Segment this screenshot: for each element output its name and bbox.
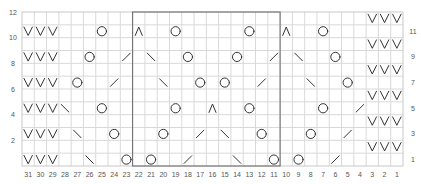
chart-labels: 3130292827262524232221201918171615141312… — [9, 9, 417, 179]
column-label: 19 — [172, 171, 180, 178]
slip-stitch-icon — [24, 27, 32, 35]
yarn-over-icon — [220, 78, 229, 87]
column-label: 13 — [245, 171, 253, 178]
column-label: 9 — [297, 171, 301, 178]
column-label: 2 — [383, 171, 387, 178]
k2tog-icon — [344, 130, 352, 138]
slip-stitch-icon — [36, 53, 44, 61]
row-label-right: 7 — [411, 79, 415, 86]
yarn-over-icon — [269, 155, 278, 164]
ssk-icon — [74, 130, 82, 138]
slip-stitch-icon — [393, 14, 401, 22]
column-label: 23 — [123, 171, 131, 178]
slip-stitch-icon — [24, 53, 32, 61]
double-decrease-icon — [209, 104, 216, 112]
row-label-right: 11 — [409, 28, 416, 35]
column-label: 20 — [159, 171, 167, 178]
slip-stitch-icon — [368, 66, 376, 74]
slip-stitch-icon — [393, 66, 401, 74]
yarn-over-icon — [343, 78, 352, 87]
slip-stitch-icon — [380, 143, 388, 151]
yarn-over-icon — [122, 155, 131, 164]
slip-stitch-icon — [393, 143, 401, 151]
ssk-icon — [160, 79, 168, 87]
column-label: 18 — [184, 171, 192, 178]
column-label: 8 — [309, 171, 313, 178]
yarn-over-icon — [232, 52, 241, 61]
yarn-over-icon — [183, 52, 192, 61]
column-label: 1 — [395, 171, 399, 178]
column-label: 29 — [49, 171, 57, 178]
row-label-right: 3 — [411, 130, 415, 137]
double-decrease-icon — [135, 27, 142, 35]
ssk-icon — [147, 53, 155, 61]
yarn-over-icon — [159, 129, 168, 138]
slip-stitch-icon — [380, 117, 388, 125]
ssk-icon — [86, 156, 94, 164]
slip-stitch-icon — [368, 91, 376, 99]
slip-stitch-icon — [24, 155, 32, 163]
knitting-chart: 3130292827262524232221201918171615141312… — [0, 0, 421, 184]
slip-stitch-icon — [24, 104, 32, 112]
ssk-icon — [307, 79, 315, 87]
k2tog-icon — [196, 130, 204, 138]
slip-stitch-icon — [380, 14, 388, 22]
k2tog-icon — [258, 79, 266, 87]
k2tog-icon — [356, 104, 364, 112]
slip-stitch-icon — [380, 66, 388, 74]
column-label: 3 — [370, 171, 374, 178]
yarn-over-icon — [257, 129, 266, 138]
yarn-over-icon — [196, 78, 205, 87]
slip-stitch-icon — [36, 104, 44, 112]
column-label: 28 — [61, 171, 69, 178]
slip-stitch-icon — [49, 78, 57, 86]
slip-stitch-icon — [380, 40, 388, 48]
yarn-over-icon — [73, 78, 82, 87]
yarn-over-icon — [319, 27, 328, 36]
column-label: 30 — [37, 171, 45, 178]
ssk-icon — [295, 53, 303, 61]
column-label: 27 — [73, 171, 81, 178]
row-label-left: 4 — [11, 111, 15, 118]
double-decrease-icon — [283, 27, 290, 35]
slip-stitch-icon — [36, 78, 44, 86]
slip-stitch-icon — [36, 27, 44, 35]
slip-stitch-icon — [368, 117, 376, 125]
slip-stitch-icon — [393, 117, 401, 125]
k2tog-icon — [123, 53, 131, 61]
row-label-left: 2 — [11, 137, 15, 144]
row-label-left: 12 — [9, 9, 17, 16]
yarn-over-icon — [171, 104, 180, 113]
row-label-right: 1 — [411, 156, 415, 163]
row-label-left: 6 — [11, 86, 15, 93]
column-label: 7 — [321, 171, 325, 178]
slip-stitch-icon — [36, 130, 44, 138]
column-label: 11 — [270, 171, 277, 178]
yarn-over-icon — [97, 104, 106, 113]
slip-stitch-icon — [368, 143, 376, 151]
yarn-over-icon — [85, 52, 94, 61]
row-label-left: 10 — [9, 34, 17, 41]
k2tog-icon — [110, 79, 118, 87]
slip-stitch-icon — [36, 155, 44, 163]
column-label: 17 — [196, 171, 204, 178]
k2tog-icon — [270, 53, 278, 61]
ssk-icon — [61, 104, 69, 112]
column-label: 4 — [358, 171, 362, 178]
column-label: 12 — [258, 171, 266, 178]
slip-stitch-icon — [24, 78, 32, 86]
column-label: 24 — [110, 171, 118, 178]
yarn-over-icon — [294, 155, 303, 164]
slip-stitch-icon — [380, 91, 388, 99]
ssk-icon — [233, 156, 241, 164]
column-label: 25 — [98, 171, 106, 178]
row-label-right: 5 — [411, 105, 415, 112]
yarn-over-icon — [306, 129, 315, 138]
yarn-over-icon — [319, 104, 328, 113]
slip-stitch-icon — [368, 14, 376, 22]
slip-stitch-icon — [49, 104, 57, 112]
slip-stitch-icon — [49, 53, 57, 61]
row-label-right: 9 — [411, 53, 415, 60]
slip-stitch-icon — [49, 155, 57, 163]
slip-stitch-icon — [49, 27, 57, 35]
